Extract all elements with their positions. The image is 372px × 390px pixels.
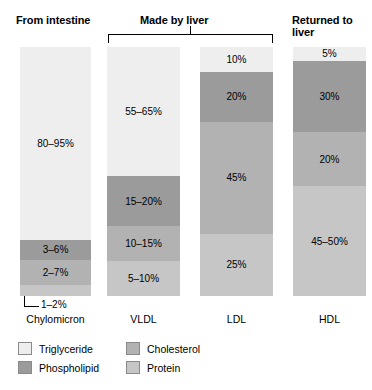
x-axis-label-hdl: HDL	[293, 313, 366, 325]
bar-segment-label: 45%	[226, 172, 246, 183]
stacked-bar-chylomicron: 80–95%3–6%2–7%1–2%	[20, 47, 91, 296]
bar-segment-vldl-triglyceride: 55–65%	[107, 47, 180, 176]
group-bracket-made-by-liver	[108, 34, 273, 43]
stacked-bar-vldl: 55–65%15–20%10–15%5–10%	[107, 47, 180, 296]
x-axis-label-ldl: LDL	[200, 313, 273, 325]
stacked-bar-ldl: 10%20%45%25%	[200, 47, 273, 296]
bar-segment-label: 15–20%	[125, 196, 162, 207]
x-axis-label-vldl: VLDL	[107, 313, 180, 325]
bar-segment-vldl-phospholipid: 15–20%	[107, 176, 180, 226]
bar-segment-hdl-protein: 45–50%	[293, 186, 366, 296]
bar-segment-label: 45–50%	[311, 236, 348, 247]
bar-segment-vldl-protein: 5–10%	[107, 261, 180, 296]
bar-segment-label: 20%	[319, 154, 339, 165]
legend-swatch-cholesterol	[126, 342, 140, 355]
legend-swatch-triglyceride	[18, 342, 32, 355]
chart-legend: Triglyceride Phospholipid Cholesterol Pr…	[0, 340, 372, 386]
lipoprotein-composition-chart: From intestine Made by liver Returned to…	[0, 0, 372, 390]
bar-segment-ldl-triglyceride: 10%	[200, 47, 273, 72]
bar-segment-label: 25%	[226, 259, 246, 270]
legend-label-cholesterol: Cholesterol	[147, 343, 200, 355]
legend-item-cholesterol: Cholesterol	[126, 342, 200, 355]
legend-swatch-protein	[126, 361, 140, 374]
callout-label-protein-chylomicron: 1–2%	[41, 299, 67, 310]
bar-segment-ldl-cholesterol: 45%	[200, 122, 273, 234]
legend-item-phospholipid: Phospholipid	[18, 361, 99, 374]
bar-segment-chylomicron-cholesterol: 2–7%	[20, 260, 91, 285]
bar-segment-ldl-phospholipid: 20%	[200, 72, 273, 122]
bar-segment-label: 10%	[226, 54, 246, 65]
group-header-from-intestine: From intestine	[16, 14, 90, 26]
bar-segment-label: 30%	[319, 91, 339, 102]
legend-label-phospholipid: Phospholipid	[39, 362, 99, 374]
bar-segment-label: 20%	[226, 91, 246, 102]
callout-horizontal-line	[24, 306, 39, 307]
legend-label-protein: Protein	[147, 362, 180, 374]
legend-label-triglyceride: Triglyceride	[39, 343, 93, 355]
legend-swatch-phospholipid	[18, 361, 32, 374]
group-header-returned-line1: Returned to	[292, 14, 353, 26]
bar-segment-chylomicron-protein: 1–2%	[20, 285, 91, 296]
bar-segment-label: 5%	[322, 48, 336, 59]
bar-segment-hdl-phospholipid: 30%	[293, 61, 366, 132]
bar-segment-label: 5–10%	[128, 273, 159, 284]
bar-segment-ldl-protein: 25%	[200, 234, 273, 296]
legend-item-triglyceride: Triglyceride	[18, 342, 93, 355]
bar-segment-label: 10–15%	[125, 238, 162, 249]
bar-segment-vldl-cholesterol: 10–15%	[107, 226, 180, 261]
bar-segment-label: 80–95%	[37, 138, 74, 149]
group-header-returned-line2: liver	[292, 26, 314, 38]
group-header-returned-to-liver: Returned to liver	[292, 14, 368, 38]
bar-segment-hdl-triglyceride: 5%	[293, 47, 366, 61]
bar-segment-chylomicron-phospholipid: 3–6%	[20, 240, 91, 260]
stacked-bar-hdl: 5%30%20%45–50%	[293, 47, 366, 296]
x-axis-label-chylomicron: Chylomicron	[8, 313, 103, 325]
bar-segment-chylomicron-triglyceride: 80–95%	[20, 47, 91, 240]
bar-segment-label: 2–7%	[43, 267, 69, 278]
bar-segment-label: 55–65%	[125, 106, 162, 117]
legend-item-protein: Protein	[126, 361, 180, 374]
bar-segment-label: 3–6%	[43, 244, 69, 255]
group-header-made-by-liver: Made by liver	[140, 14, 208, 26]
bar-segment-hdl-cholesterol: 20%	[293, 132, 366, 187]
